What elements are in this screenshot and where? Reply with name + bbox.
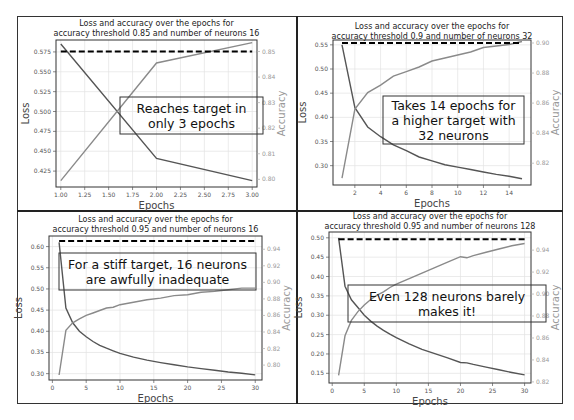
- y-right-tick-label: 0.82: [262, 124, 276, 131]
- x-tick-label: 25: [489, 387, 497, 394]
- x-tick-label: 20: [184, 384, 192, 391]
- y-axis-label: Loss: [293, 297, 304, 319]
- y-right-tick-label: 0.83: [262, 99, 276, 106]
- y-tick-label: 0.45: [315, 89, 329, 96]
- y-tick-label: 0.425: [34, 167, 51, 174]
- chart-title-line: accuracy threshold 0.95 and number of ne…: [53, 225, 259, 234]
- x-tick-label: 2.00: [150, 191, 164, 198]
- x-tick-label: 1.50: [102, 191, 116, 198]
- y-tick-label: 0.20: [311, 350, 325, 357]
- chart-title-line: Loss and accuracy over the epochs for: [353, 212, 508, 221]
- y-tick-label: 0.500: [34, 108, 51, 115]
- chart-panel-3: Loss and accuracy over the epochs foracc…: [13, 215, 292, 404]
- y-right-axis-label: Accuracy: [550, 90, 561, 136]
- x-tick-label: 15: [425, 387, 433, 394]
- y-tick-label: 0.45: [31, 306, 45, 313]
- annotation-text: For a stiff target, 16 neurons: [68, 257, 247, 272]
- y-right-tick-label: 0.90: [267, 278, 281, 285]
- x-tick-label: 2.50: [198, 191, 212, 198]
- y-right-tick-label: 0.81: [262, 150, 276, 157]
- x-tick-label: 4: [379, 189, 383, 196]
- y-right-tick-label: 0.84: [262, 73, 276, 80]
- chart-title-line: accuracy threshold 0.85 and number of ne…: [54, 29, 260, 38]
- y-tick-label: 0.35: [315, 138, 329, 145]
- x-tick-label: 10: [116, 384, 124, 391]
- x-tick-label: 15: [150, 384, 158, 391]
- y-tick-label: 0.45: [311, 253, 325, 260]
- y-right-tick-label: 0.88: [536, 69, 550, 76]
- chart-title-line: Loss and accuracy over the epochs for: [355, 22, 510, 31]
- y-right-tick-label: 0.80: [267, 361, 281, 368]
- chart-panel-4: Loss and accuracy over the epochs foracc…: [293, 212, 561, 407]
- chart-title-line: accuracy threshold 0.95 and number of ne…: [325, 222, 536, 231]
- x-tick-label: 5: [84, 384, 88, 391]
- x-tick-label: 12: [480, 189, 488, 196]
- y-right-tick-label: 0.82: [267, 345, 281, 352]
- y-tick-label: 0.35: [31, 348, 45, 355]
- y-tick-label: 0.475: [34, 127, 51, 134]
- x-tick-label: 1.00: [54, 191, 68, 198]
- y-right-tick-label: 0.85: [262, 48, 276, 55]
- y-right-axis-label: Accuracy: [281, 285, 292, 331]
- annotation-text: are awfully inadequate: [86, 272, 230, 287]
- y-tick-label: 0.15: [311, 369, 325, 376]
- y-tick-label: 0.30: [311, 311, 325, 318]
- annotation-text: 32 neurons: [418, 128, 488, 143]
- x-tick-label: 6: [404, 189, 408, 196]
- x-tick-label: 1.25: [78, 191, 92, 198]
- y-tick-label: 0.35: [311, 292, 325, 299]
- y-right-tick-label: 0.80: [262, 175, 276, 182]
- x-tick-label: 2: [353, 189, 357, 196]
- y-tick-label: 0.550: [34, 68, 51, 75]
- y-tick-label: 0.30: [315, 162, 329, 169]
- y-tick-label: 0.525: [34, 88, 51, 95]
- y-right-axis-label: Accuracy: [550, 285, 561, 331]
- x-tick-label: 0: [330, 387, 334, 394]
- y-right-tick-label: 0.92: [536, 268, 550, 275]
- y-tick-label: 0.450: [34, 147, 51, 154]
- y-right-tick-label: 0.86: [536, 99, 550, 106]
- y-tick-label: 0.30: [31, 370, 45, 377]
- x-tick-label: 0: [50, 384, 54, 391]
- x-tick-label: 2.25: [174, 191, 188, 198]
- annotation-text: Even 128 neurons barely: [369, 289, 526, 304]
- y-right-tick-label: 0.86: [536, 334, 550, 341]
- chart-title-line: Loss and accuracy over the epochs for: [78, 215, 233, 224]
- annotation-text: Takes 14 epochs for: [391, 98, 517, 113]
- y-tick-label: 0.55: [315, 41, 329, 48]
- x-axis-label: Epochs: [414, 198, 450, 209]
- x-tick-label: 10: [393, 387, 401, 394]
- y-tick-label: 0.40: [31, 327, 45, 334]
- y-right-tick-label: 0.86: [267, 311, 281, 318]
- y-right-tick-label: 0.84: [267, 328, 281, 335]
- y-tick-label: 0.55: [31, 264, 45, 271]
- x-axis-label: Epochs: [412, 396, 448, 407]
- x-tick-label: 5: [362, 387, 366, 394]
- x-tick-label: 3.00: [246, 191, 260, 198]
- x-tick-label: 30: [251, 384, 259, 391]
- x-axis-label: Epochs: [138, 393, 174, 404]
- y-tick-label: 0.50: [315, 65, 329, 72]
- x-tick-label: 14: [505, 189, 513, 196]
- x-tick-label: 30: [521, 387, 529, 394]
- annotation-text: only 3 epochs: [148, 116, 235, 131]
- y-axis-label: Loss: [13, 297, 24, 319]
- y-tick-label: 0.25: [311, 331, 325, 338]
- chart-grid: Loss and accuracy over the epochs foracc…: [0, 0, 574, 420]
- annotation-text: Reaches target in: [137, 101, 247, 116]
- y-tick-label: 0.40: [315, 113, 329, 120]
- y-axis-label: Loss: [297, 102, 308, 124]
- y-right-tick-label: 0.94: [267, 245, 281, 252]
- y-tick-label: 0.40: [311, 273, 325, 280]
- y-tick-label: 0.50: [31, 285, 45, 292]
- x-tick-label: 20: [457, 387, 465, 394]
- x-axis-label: Epochs: [139, 200, 175, 211]
- annotation-text: a higher target with: [391, 113, 515, 128]
- y-right-tick-label: 0.90: [536, 39, 550, 46]
- y-right-tick-label: 0.82: [536, 378, 550, 385]
- y-tick-label: 0.50: [311, 234, 325, 241]
- y-tick-label: 0.60: [31, 243, 45, 250]
- y-tick-label: 0.575: [34, 48, 51, 55]
- x-tick-label: 8: [430, 189, 434, 196]
- y-right-tick-label: 0.94: [536, 246, 550, 253]
